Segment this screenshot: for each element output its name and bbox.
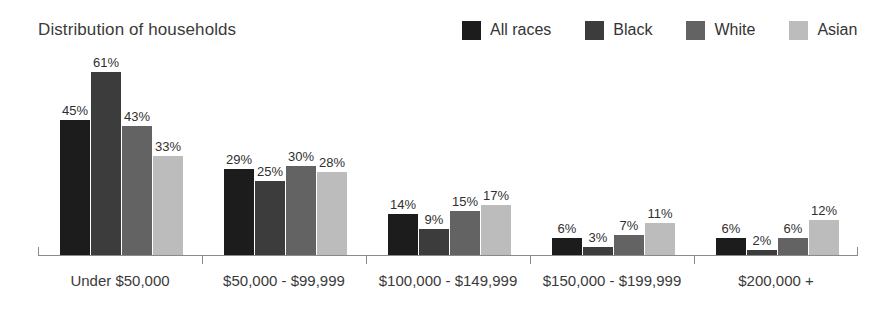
legend-swatch-icon — [462, 21, 481, 40]
bar-rect — [778, 238, 808, 256]
legend-swatch-icon — [686, 21, 705, 40]
bar-value-label: 6% — [722, 222, 741, 236]
bar-rect — [809, 220, 839, 256]
bar-rect — [716, 238, 746, 256]
bar[interactable]: 6% — [778, 220, 808, 256]
bar[interactable]: 9% — [419, 211, 449, 256]
bar-value-label: 45% — [62, 104, 88, 118]
bar-rect — [122, 126, 152, 256]
x-axis-label: $50,000 - $99,999 — [223, 272, 345, 289]
bar-group: 14%9%15%17% — [388, 60, 511, 256]
bar-value-label: 2% — [753, 234, 772, 248]
axis-tick — [366, 255, 367, 264]
bar-value-label: 29% — [226, 153, 252, 167]
bar-value-label: 12% — [811, 204, 837, 218]
bar-value-label: 43% — [124, 110, 150, 124]
bar-value-label: 15% — [452, 195, 478, 209]
bar[interactable]: 28% — [317, 154, 347, 256]
bar-value-label: 25% — [257, 165, 283, 179]
x-axis-label: $150,000 - $199,999 — [543, 272, 681, 289]
bar-value-label: 33% — [155, 140, 181, 154]
bar-value-label: 7% — [620, 219, 639, 233]
bar[interactable]: 30% — [286, 148, 316, 256]
bar-value-label: 14% — [390, 198, 416, 212]
bar[interactable]: 14% — [388, 196, 418, 256]
axis-tick — [202, 255, 203, 264]
x-axis-label: $200,000 + — [738, 272, 814, 289]
bar-value-label: 30% — [288, 150, 314, 164]
bar-rect — [224, 169, 254, 256]
legend-item[interactable]: White — [686, 21, 755, 40]
bar-rect — [91, 72, 121, 256]
axis-tick — [694, 255, 695, 264]
bar-group: 29%25%30%28% — [224, 60, 347, 256]
bar-rect — [614, 235, 644, 256]
bar-group: 45%61%43%33% — [60, 60, 183, 256]
bar-value-label: 6% — [558, 222, 577, 236]
bar-value-label: 6% — [784, 222, 803, 236]
bar[interactable]: 12% — [809, 202, 839, 256]
bar-rect — [317, 172, 347, 256]
bar-rect — [419, 229, 449, 256]
chart-title: Distribution of households — [38, 20, 236, 40]
bar-rect — [388, 214, 418, 256]
legend-swatch-icon — [789, 21, 808, 40]
legend-label: All races — [490, 21, 551, 39]
bar-rect — [286, 166, 316, 256]
legend-item[interactable]: Black — [585, 21, 652, 40]
bar-rect — [481, 205, 511, 256]
bar-rect — [255, 181, 285, 256]
x-axis-label: Under $50,000 — [70, 272, 169, 289]
bar[interactable]: 61% — [91, 54, 121, 256]
bar-value-label: 61% — [93, 56, 119, 70]
bar-value-label: 17% — [483, 189, 509, 203]
bar-value-label: 9% — [425, 213, 444, 227]
bar-rect — [153, 156, 183, 256]
bar-rect — [450, 211, 480, 256]
legend-label: White — [714, 21, 755, 39]
bar-group: 6%2%6%12% — [716, 60, 839, 256]
bar[interactable]: 2% — [747, 232, 777, 256]
legend-item[interactable]: All races — [462, 21, 551, 40]
axis-end-left — [38, 247, 39, 256]
legend-item[interactable]: Asian — [789, 21, 857, 40]
bar-rect — [645, 223, 675, 256]
bar[interactable]: 15% — [450, 193, 480, 256]
bar[interactable]: 7% — [614, 217, 644, 256]
chart-legend: All racesBlackWhiteAsian — [462, 19, 857, 41]
legend-swatch-icon — [585, 21, 604, 40]
x-axis-line — [38, 255, 858, 256]
bar[interactable]: 25% — [255, 163, 285, 256]
bar-value-label: 11% — [647, 207, 672, 221]
plot-area: 45%61%43%33%29%25%30%28%14%9%15%17%6%3%7… — [38, 60, 858, 256]
bar-group: 6%3%7%11% — [552, 60, 675, 256]
bar[interactable]: 6% — [716, 220, 746, 256]
bar[interactable]: 6% — [552, 220, 582, 256]
axis-end-right — [857, 247, 858, 256]
bar-value-label: 28% — [319, 156, 345, 170]
bar[interactable]: 11% — [645, 205, 675, 256]
x-axis-label: $100,000 - $149,999 — [379, 272, 517, 289]
bar[interactable]: 17% — [481, 187, 511, 256]
bar-rect — [552, 238, 582, 256]
bar-rect — [60, 120, 90, 256]
x-axis-category-labels: Under $50,000$50,000 - $99,999$100,000 -… — [38, 272, 858, 296]
bar[interactable]: 45% — [60, 102, 90, 256]
axis-tick — [530, 255, 531, 264]
bar-chart: Distribution of households All racesBlac… — [0, 0, 895, 314]
bar[interactable]: 3% — [583, 229, 613, 256]
bar[interactable]: 43% — [122, 108, 152, 256]
bar[interactable]: 33% — [153, 138, 183, 256]
bar[interactable]: 29% — [224, 151, 254, 256]
legend-label: Asian — [817, 21, 857, 39]
bar-value-label: 3% — [589, 231, 608, 245]
legend-label: Black — [613, 21, 652, 39]
